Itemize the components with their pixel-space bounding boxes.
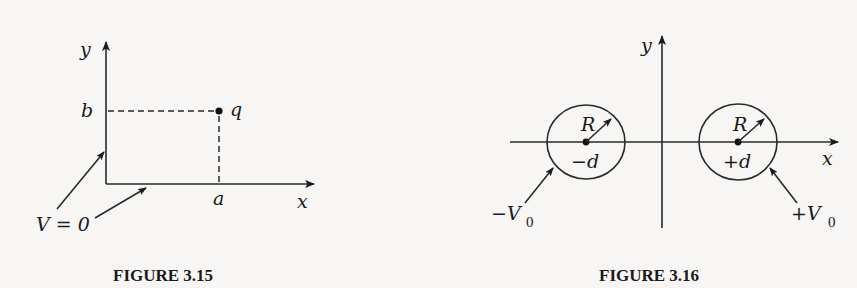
figure-3-15: y x b a q V = 0 FIGURE 3.15 [36,38,314,285]
svg-text:0: 0 [828,214,836,230]
right-potential-label: +V 0 [791,202,836,230]
left-radius-label: R [580,113,595,135]
a-label: a [213,187,224,209]
y-axis-label: y [640,34,652,56]
left-center-label: −d [571,150,599,172]
boundary-arrow-x [95,188,146,218]
left-potential-label: −V 0 [491,202,534,230]
b-label: b [81,99,93,121]
x-axis-label: x [297,190,308,212]
right-center-label: +d [723,150,751,172]
svg-text:−V: −V [491,202,523,224]
y-axis-label: y [79,38,91,60]
right-potential-arrow [770,168,797,203]
svg-text:+V: +V [791,202,823,224]
figure-caption: FIGURE 3.15 [113,266,213,285]
svg-text:0: 0 [526,214,534,230]
right-radius-label: R [732,113,747,135]
figure-3-16: y x R R −d +d −V 0 +V 0 FIGURE 3.16 [491,34,838,285]
boundary-label: V = 0 [36,213,90,235]
charge-point [215,107,222,114]
boundary-arrow-y [57,152,104,209]
figures-canvas: y x b a q V = 0 FIGURE 3.15 y x R R −d +… [0,0,857,288]
x-axis-label: x [822,147,833,169]
figure-caption: FIGURE 3.16 [599,266,699,285]
left-potential-arrow [525,168,553,203]
charge-label: q [230,98,242,120]
